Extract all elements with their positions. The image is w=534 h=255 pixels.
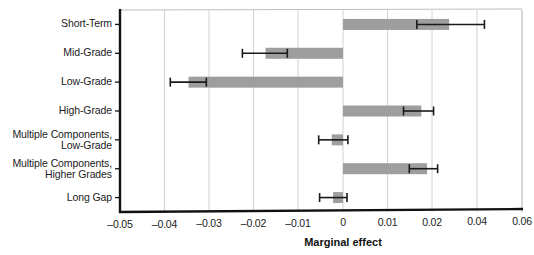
y-axis-category-label: Multiple Components, Higher Grades [0,157,112,180]
x-axis-tick-label: 0.01 [378,216,398,228]
marginal-effect-chart: Short-TermMid-GradeLow-GradeHigh-GradeMu… [0,0,534,255]
y-axis-category-label: Multiple Components, Low-Grade [0,128,112,151]
x-axis-tick-label: 0 [340,216,346,228]
x-axis-tick-label: 0.02 [422,216,442,228]
y-axis-category-label: Long Gap [0,192,112,204]
x-axis-tick-label: –0.02 [241,217,266,229]
x-axis-tick-label: –0.01 [285,217,310,229]
x-axis-tick-label: –0.03 [196,217,221,229]
x-axis-tick-label: 0.06 [512,215,532,227]
x-axis-tick-label: –0.04 [152,218,177,230]
y-axis-category-label: Low-Grade [0,76,112,88]
y-axis-category-label: High-Grade [0,105,112,117]
x-axis-spine [119,209,523,212]
plot-frame-top [120,9,522,10]
x-axis-tick-label: –0.05 [107,218,132,230]
y-axis-category-label: Short-Term [0,19,112,31]
y-axis-category-label: Mid-Grade [0,48,112,60]
bar [189,77,343,88]
x-axis-tick-label: 0.04 [467,215,487,227]
x-axis-title: Marginal effect [304,236,382,248]
